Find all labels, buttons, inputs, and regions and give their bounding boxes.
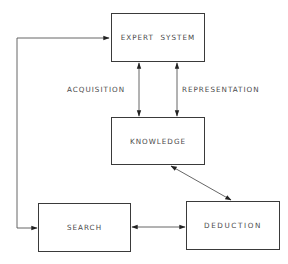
search-label: SEARCH bbox=[67, 223, 102, 232]
expert-system-node: EXPERT SYSTEM bbox=[111, 13, 205, 62]
representation-label: REPRESENTATION bbox=[182, 85, 260, 94]
acquisition-label: ACQUISITION bbox=[67, 85, 125, 94]
knowledge-label: KNOWLEDGE bbox=[130, 137, 186, 146]
expert-system-label: EXPERT SYSTEM bbox=[121, 33, 195, 42]
knowledge-deduction-arrow bbox=[171, 166, 231, 200]
deduction-label: DEDUCTION bbox=[204, 221, 262, 230]
search-node: SEARCH bbox=[38, 203, 131, 252]
search-expert-feedback-arrow bbox=[17, 38, 109, 228]
knowledge-node: KNOWLEDGE bbox=[111, 117, 205, 165]
deduction-node: DEDUCTION bbox=[186, 201, 280, 250]
